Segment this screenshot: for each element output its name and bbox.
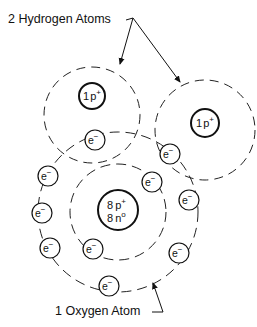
electron: e− xyxy=(38,166,58,186)
electron: e− xyxy=(169,243,189,263)
electron: e− xyxy=(32,203,52,223)
oxygen-leader-arrow xyxy=(152,283,163,312)
hydrogen-label: 2 Hydrogen Atoms xyxy=(8,12,111,26)
electron: e− xyxy=(40,238,60,258)
hydrogen-leader-arrows xyxy=(120,18,180,82)
electron: e− xyxy=(83,239,103,259)
water-molecule-diagram: 2 Hydrogen Atoms 1p+ 1p+ 8p+ 8no e− e− e… xyxy=(0,0,257,327)
hydrogen-atom-right: 1p+ xyxy=(155,80,255,180)
electron: e− xyxy=(99,276,119,296)
electron: e− xyxy=(85,130,105,150)
electron: e− xyxy=(142,172,162,192)
electron: e− xyxy=(179,190,199,210)
oxygen-label: 1 Oxygen Atom xyxy=(55,304,140,318)
electron: e− xyxy=(160,144,180,164)
